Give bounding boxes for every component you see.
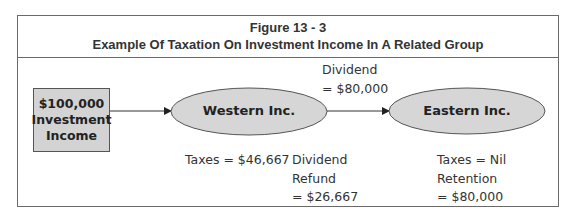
- refund-line-1: Dividend: [292, 151, 358, 170]
- dividend-flow-line-2: = $80,000: [322, 80, 388, 99]
- western-label: Western Inc.: [171, 103, 327, 118]
- western-taxes-note: Taxes = $46,667: [185, 151, 290, 170]
- eastern-line-1: Taxes = Nil: [437, 151, 506, 170]
- eastern-line-2: Retention: [437, 170, 506, 189]
- refund-line-3: = $26,667: [292, 188, 358, 207]
- refund-line-2: Refund: [292, 170, 358, 189]
- dividend-flow-line-1: Dividend: [322, 61, 388, 80]
- eastern-line-3: = $80,000: [437, 188, 506, 207]
- eastern-note: Taxes = Nil Retention = $80,000: [437, 151, 506, 207]
- dividend-flow-label: Dividend = $80,000: [322, 61, 388, 98]
- dividend-refund-note: Dividend Refund = $26,667: [292, 151, 358, 207]
- eastern-label: Eastern Inc.: [389, 103, 545, 118]
